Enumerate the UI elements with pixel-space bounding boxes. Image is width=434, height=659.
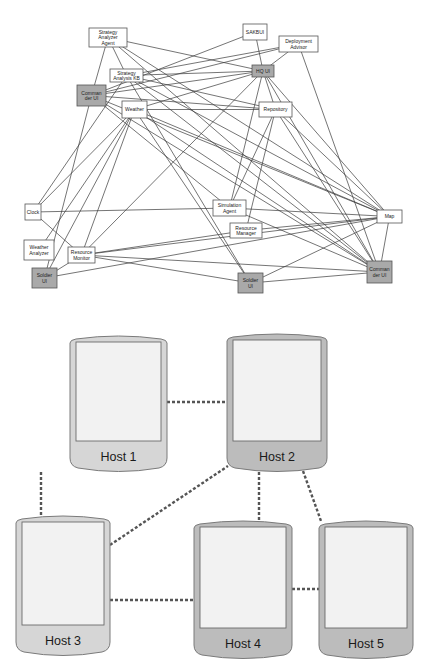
edge-cmd_ui_l-cmd_ui_r [92,96,380,273]
edge-weather-cmd_ui_r [135,110,380,273]
architecture-figure: StrategyAnalyzerAgentSAKBUIDeploymentAdv… [0,0,434,659]
node-label: der UI [85,95,99,101]
edge-repo-sim [230,110,276,209]
node-cmd_ui_r: Commander UI [367,261,392,283]
node-label: Clock [27,209,40,215]
device-screen [76,342,161,441]
edge-repo-cmd_ui_r [276,110,380,273]
node-label: Map [385,213,395,219]
node-label: Weather [125,106,144,112]
agent-graph-nodes: StrategyAnalyzerAgentSAKBUIDeploymentAdv… [24,24,402,293]
node-res_mon: ResourceMonitor [68,247,95,263]
node-label: Monitor [73,255,90,261]
node-label: Repository [264,106,288,112]
node-sakbui: SAKBUI [243,24,267,40]
device-screen [325,527,407,628]
edge-soldier_m-res_mon [82,255,251,283]
node-label: UI [248,283,253,289]
node-weather_an: WeatherAnalyzer [24,240,54,260]
host-label: Host 3 [45,634,81,648]
edge-weather-res_mon [82,110,135,256]
node-hq_ui: HQ UI [252,65,274,77]
node-label: HQ UI [256,68,270,74]
host-devices: Host 1Host 2Host 3Host 4Host 5 [16,334,413,659]
node-sim: SimulationAgent [213,200,246,216]
node-clock: Clock [25,204,41,220]
node-deploy: DeploymentAdvisor [279,36,318,52]
node-label: Agent [101,40,115,46]
host-label: Host 1 [100,450,136,464]
device-host5: Host 5 [319,521,413,659]
device-host1: Host 1 [70,336,167,472]
edge-hq_ui-cmd_ui_r [263,71,380,272]
device-host2: Host 2 [227,334,327,472]
edge-hq_ui-sim [230,71,264,208]
device-screen [200,527,286,628]
node-res_mgr: ResourceManager [230,223,262,238]
edge-res_mgr-res_mon [82,231,247,256]
node-label: SAKBUI [246,29,264,35]
edge-repo-res_mgr [246,110,276,231]
node-label: Agent [223,208,237,214]
node-label: Analyzer [29,250,49,256]
host-label: Host 5 [348,637,384,651]
node-sa_kb: StrategyAnalysis KB [110,69,143,82]
edge-repo-map [276,110,390,217]
node-label: Analysis KB [113,75,140,81]
diagram-canvas: StrategyAnalyzerAgentSAKBUIDeploymentAdv… [0,0,434,659]
edge-sa_agent-map [108,38,390,217]
node-map: Map [377,210,402,223]
node-soldier_m: SoldierUI [238,273,263,293]
edge-sa_agent-hq_ui [108,38,263,72]
edge-sim-map [230,208,390,217]
device-screen [233,340,321,441]
edge-cmd_ui_l-repo [92,96,276,110]
node-label: Manager [236,230,256,236]
edge-sa_kb-map [127,76,390,217]
device-host4: Host 4 [194,521,292,659]
edge-hq_ui-map [263,71,390,217]
node-cmd_ui_l: Commander UI [77,85,106,106]
device-screen [22,522,104,625]
network-link [303,471,321,521]
node-weather: Weather [122,101,147,118]
node-label: der UI [373,272,387,278]
device-host3: Host 3 [16,516,110,656]
edge-weather-map [135,110,390,217]
node-sa_agent: StrategyAnalyzerAgent [89,28,127,47]
edge-soldier_l-map [45,217,390,279]
host-label: Host 2 [259,450,295,464]
node-label: Advisor [290,44,307,50]
agent-graph-edges [33,32,390,283]
edge-weather-weather_an [39,110,135,251]
node-label: UI [42,278,47,284]
node-soldier_l: SoldierUI [32,268,57,288]
edge-sim-cmd_ui_r [230,208,380,272]
host-label: Host 4 [225,637,261,651]
node-repo: Repository [259,102,292,117]
edge-weather-soldier_m [135,110,251,284]
